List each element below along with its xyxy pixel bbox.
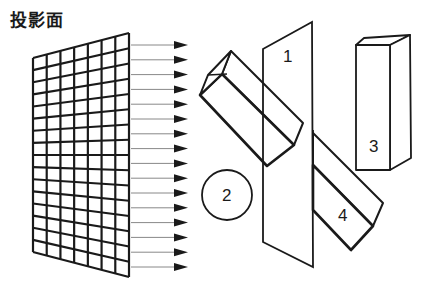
label-4: 4 [338,206,347,225]
label-2: 2 [222,186,231,205]
arrowhead-icon [174,71,188,79]
arrowhead-icon [174,56,188,64]
label-1: 1 [283,47,292,66]
arrowhead-icon [174,100,188,108]
projection-grid [33,33,129,277]
arrowhead-icon [174,204,188,212]
projection-arrows [131,41,188,271]
arrowhead-icon [174,189,188,197]
arrowhead-icon [174,159,188,167]
arrowhead-icon [174,219,188,227]
arrowhead-icon [174,115,188,123]
arrowhead-icon [174,248,188,256]
tilted-prism-upper [200,51,303,166]
arrowhead-icon [174,85,188,93]
label-3: 3 [369,137,378,156]
arrowhead-icon [174,233,188,241]
arrowhead-icon [174,130,188,138]
prism-3 [356,35,411,170]
arrowhead-icon [174,41,188,49]
arrowhead-icon [174,174,188,182]
arrowhead-icon [174,263,188,271]
projection-diagram: 1 2 3 4 [0,0,421,290]
arrowhead-icon [174,145,188,153]
